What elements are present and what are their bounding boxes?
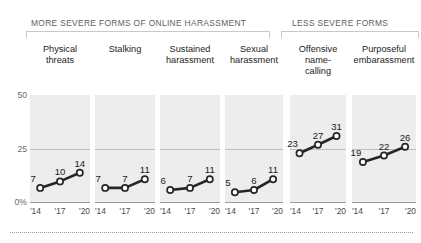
- data-point-4-2: [251, 187, 257, 193]
- data-point-2-3: [142, 176, 148, 182]
- data-label-1-2: 10: [55, 166, 66, 177]
- data-point-6-2: [381, 152, 387, 158]
- panel-title-5-line2: name-: [290, 55, 346, 66]
- series-3: 6711: [160, 95, 220, 203]
- data-point-5-3: [333, 133, 339, 139]
- series-6: 192226: [352, 95, 416, 203]
- data-point-5-1: [296, 150, 302, 156]
- plot-area-1: 71014: [30, 95, 90, 203]
- x-tick-3-2: '17: [185, 206, 196, 216]
- panel-title-5-line1: Offensive: [290, 44, 346, 55]
- series-4: 5611: [225, 95, 283, 203]
- panel-title-1-line2: threats: [30, 55, 90, 66]
- x-axis-3: '14'17'20: [160, 206, 220, 216]
- data-label-1-1: 7: [31, 173, 36, 184]
- data-label-3-1: 6: [161, 175, 166, 186]
- data-label-4-1: 5: [225, 177, 230, 188]
- data-point-2-1: [102, 185, 108, 191]
- data-label-6-2: 22: [379, 141, 390, 152]
- data-label-3-2: 7: [187, 173, 192, 184]
- plot-area-3: 6711: [160, 95, 220, 203]
- panel-title-2-line1: Stalking: [95, 44, 155, 55]
- panel-title-6-line2: embarassment: [352, 55, 416, 66]
- plot-area-6: 192226: [352, 95, 416, 203]
- panel-title-4-line2: harassment: [225, 55, 283, 66]
- x-tick-1-2: '17: [55, 206, 66, 216]
- data-point-1-1: [37, 185, 43, 191]
- panel-title-6: Purposefulembarassment: [352, 44, 416, 66]
- data-point-5-2: [315, 142, 321, 148]
- x-tick-5-3: '20: [335, 206, 346, 216]
- panel-title-2: Stalking: [95, 44, 155, 55]
- panel-title-4-line1: Sexual: [225, 44, 283, 55]
- x-tick-1-1: '14: [30, 206, 41, 216]
- group-header-more-severe: MORE SEVERE FORMS OF ONLINE HARASSMENT: [31, 18, 246, 28]
- data-point-1-3: [77, 170, 83, 176]
- series-2: 7711: [95, 95, 155, 203]
- data-label-4-2: 6: [251, 175, 256, 186]
- y-tick-0: 0%: [15, 197, 27, 207]
- x-tick-5-1: '14: [290, 206, 301, 216]
- x-tick-1-3: '20: [79, 206, 90, 216]
- data-label-5-3: 31: [331, 121, 342, 132]
- x-tick-6-2: '17: [379, 206, 390, 216]
- data-point-3-3: [207, 176, 213, 182]
- y-axis: 50 25 0%: [0, 0, 27, 243]
- data-point-4-3: [270, 176, 276, 182]
- series-5: 232731: [290, 95, 346, 203]
- data-label-4-3: 11: [268, 164, 278, 175]
- x-tick-2-1: '14: [95, 206, 106, 216]
- y-tick-25: 25: [17, 144, 27, 154]
- x-axis-1: '14'17'20: [30, 206, 90, 216]
- data-label-2-1: 7: [96, 173, 101, 184]
- group-header-less-severe: LESS SEVERE FORMS: [292, 18, 388, 28]
- data-point-3-1: [167, 187, 173, 193]
- x-axis-4: '14'17'20: [225, 206, 283, 216]
- x-axis-2: '14'17'20: [95, 206, 155, 216]
- group-bracket-more-severe: [26, 31, 270, 38]
- plot-area-5: 232731: [290, 95, 346, 203]
- y-tick-50: 50: [17, 90, 27, 100]
- data-label-2-3: 11: [140, 164, 150, 175]
- data-label-6-3: 26: [400, 132, 411, 143]
- data-label-1-3: 14: [74, 158, 85, 169]
- x-axis-6: '14'17'20: [352, 206, 416, 216]
- x-tick-2-3: '20: [144, 206, 155, 216]
- panel-title-1-line1: Physical: [30, 44, 90, 55]
- data-label-6-1: 19: [351, 147, 362, 158]
- x-tick-6-3: '20: [405, 206, 416, 216]
- plot-area-2: 7711: [95, 95, 155, 203]
- data-label-3-3: 11: [205, 164, 215, 175]
- panel-title-5: Offensivename-calling: [290, 44, 346, 77]
- panel-title-4: Sexualharassment: [225, 44, 283, 66]
- footer-divider: [10, 232, 413, 234]
- x-axis-5: '14'17'20: [290, 206, 346, 216]
- x-tick-2-2: '17: [120, 206, 131, 216]
- x-tick-5-2: '17: [313, 206, 324, 216]
- x-tick-3-1: '14: [160, 206, 171, 216]
- panel-title-3-line2: harassment: [160, 55, 220, 66]
- data-point-6-3: [402, 144, 408, 150]
- x-tick-4-2: '17: [249, 206, 260, 216]
- series-1: 71014: [30, 95, 90, 203]
- data-point-1-2: [57, 178, 63, 184]
- panel-title-3: Sustainedharassment: [160, 44, 220, 66]
- x-tick-4-3: '20: [272, 206, 283, 216]
- group-bracket-less-severe: [281, 31, 419, 38]
- x-tick-4-1: '14: [225, 206, 236, 216]
- x-tick-3-3: '20: [209, 206, 220, 216]
- data-point-2-2: [122, 185, 128, 191]
- panel-title-6-line1: Purposeful: [352, 44, 416, 55]
- data-point-6-1: [360, 159, 366, 165]
- panel-title-3-line1: Sustained: [160, 44, 220, 55]
- panel-title-5-line3: calling: [290, 66, 346, 77]
- data-label-2-2: 7: [122, 173, 127, 184]
- panel-title-1: Physicalthreats: [30, 44, 90, 66]
- data-point-4-1: [232, 189, 238, 195]
- x-tick-6-1: '14: [352, 206, 363, 216]
- plot-area-4: 5611: [225, 95, 283, 203]
- data-label-5-2: 27: [313, 130, 324, 141]
- data-point-3-2: [187, 185, 193, 191]
- data-label-5-1: 23: [287, 138, 298, 149]
